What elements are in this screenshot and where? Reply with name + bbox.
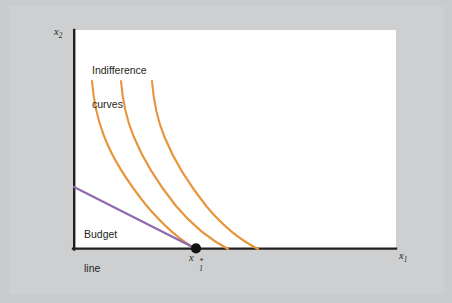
figure-root: Indifference curves Budget line x2 x1 x*… bbox=[0, 0, 452, 303]
indifference-curves-label: Indifference curves bbox=[92, 42, 147, 133]
optimum-point-label-base: x bbox=[189, 252, 194, 263]
indifference-curves-label-line2: curves bbox=[92, 99, 147, 110]
budget-line-label: Budget line bbox=[84, 206, 117, 297]
optimum-point-label: x*1 bbox=[189, 252, 194, 263]
x-axis-label: x1 bbox=[399, 250, 407, 264]
indifference-curves-label-line1: Indifference bbox=[92, 65, 147, 76]
budget-line-label-line1: Budget bbox=[84, 229, 117, 240]
x-axis-label-subscript: 1 bbox=[404, 256, 408, 264]
optimum-point-label-subscript: 1 bbox=[199, 265, 203, 273]
budget-line-label-line2: line bbox=[84, 263, 117, 274]
indifference-curve-plot bbox=[0, 0, 452, 303]
y-axis-label: x2 bbox=[54, 26, 62, 40]
y-axis-label-subscript: 2 bbox=[59, 32, 63, 40]
